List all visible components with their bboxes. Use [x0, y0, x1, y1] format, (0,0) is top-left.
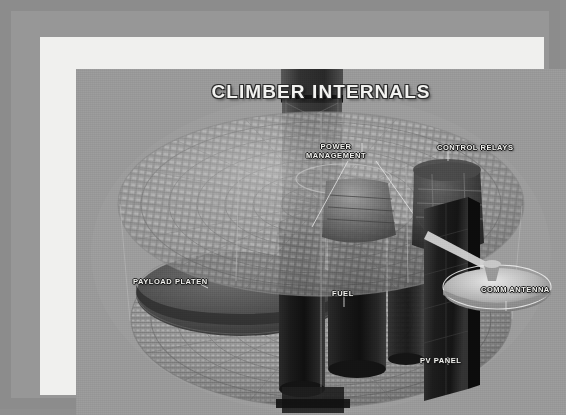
- slide-title: CLIMBER INTERNALS: [76, 81, 566, 103]
- slide-mid-frame: POWER MANAGEMENT CONTROL RELAYS PAYLOAD …: [11, 11, 549, 398]
- label-control-relays: CONTROL RELAYS: [437, 143, 513, 152]
- label-power-management-line1: POWER: [306, 142, 366, 151]
- climber-cutaway-diagram: [76, 69, 566, 415]
- slide-white-mat: POWER MANAGEMENT CONTROL RELAYS PAYLOAD …: [40, 37, 544, 395]
- label-fuel: FUEL: [332, 289, 354, 298]
- climber-illustration: [76, 69, 566, 415]
- slide-canvas: POWER MANAGEMENT CONTROL RELAYS PAYLOAD …: [76, 69, 566, 415]
- label-power-management-line2: MANAGEMENT: [306, 151, 366, 160]
- label-power-management: POWER MANAGEMENT: [306, 142, 366, 161]
- label-comm-antenna: COMM ANTENNA: [481, 285, 550, 294]
- label-payload-platen: PAYLOAD PLATEN: [133, 277, 208, 286]
- lower-tether-stub: [276, 387, 350, 413]
- label-pv-panel: PV PANEL: [420, 356, 461, 365]
